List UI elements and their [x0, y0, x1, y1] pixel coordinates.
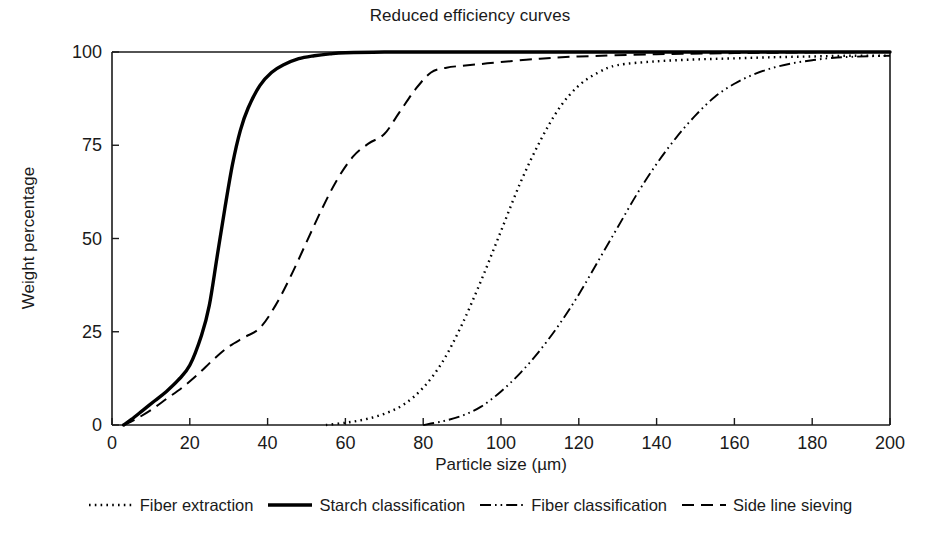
legend-line-swatch [267, 499, 313, 511]
legend-line-swatch [681, 499, 727, 511]
chart-legend: Fiber extractionStarch classificationFib… [0, 497, 940, 514]
y-tick-label: 25 [82, 322, 102, 342]
y-axis-tick-labels: 0255075100 [72, 42, 102, 435]
x-tick-label: 0 [107, 433, 117, 453]
axis-frame [112, 52, 890, 425]
x-tick-label: 140 [642, 433, 672, 453]
x-tick-label: 100 [486, 433, 516, 453]
y-axis-ticks [112, 52, 119, 425]
series-line [124, 52, 890, 425]
y-axis-title: Weight percentage [19, 167, 38, 309]
y-tick-label: 75 [82, 135, 102, 155]
y-tick-label: 100 [72, 42, 102, 62]
x-tick-label: 40 [258, 433, 278, 453]
x-tick-label: 60 [335, 433, 355, 453]
series-line [326, 56, 890, 425]
legend-line-swatch [479, 499, 525, 511]
x-tick-label: 20 [180, 433, 200, 453]
legend-item-label: Fiber extraction [140, 497, 254, 514]
legend-item-label: Starch classification [319, 497, 465, 514]
y-tick-label: 0 [92, 415, 102, 435]
x-tick-label: 160 [719, 433, 749, 453]
legend-item-label: Side line sieving [733, 497, 852, 514]
legend-item[interactable]: Fiber classification [472, 497, 674, 514]
x-axis-title: Particle size (µm) [435, 455, 567, 474]
x-tick-label: 80 [413, 433, 433, 453]
legend-item-label: Fiber classification [531, 497, 667, 514]
legend-item[interactable]: Side line sieving [674, 497, 859, 514]
data-series-group [124, 52, 890, 425]
x-tick-label: 120 [564, 433, 594, 453]
legend-item[interactable]: Fiber extraction [81, 497, 261, 514]
series-line [423, 56, 890, 425]
chart-figure: Reduced efficiency curves 02040608010012… [0, 0, 940, 543]
series-line [124, 52, 890, 425]
x-axis-ticks [112, 418, 890, 425]
x-axis-tick-labels: 020406080100120140160180200 [107, 433, 905, 453]
legend-line-swatch [88, 499, 134, 511]
y-tick-label: 50 [82, 229, 102, 249]
plot-area: 020406080100120140160180200 0255075100 P… [0, 0, 940, 500]
x-tick-label: 200 [875, 433, 905, 453]
x-tick-label: 180 [797, 433, 827, 453]
legend-item[interactable]: Starch classification [260, 497, 472, 514]
